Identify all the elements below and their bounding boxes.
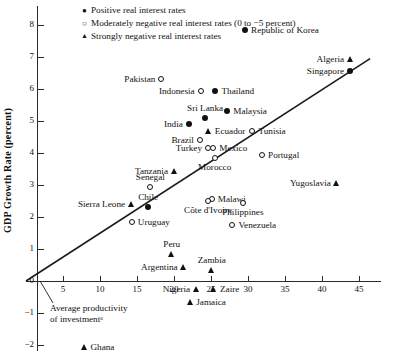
open-circle-marker-icon: [210, 145, 216, 151]
open-circle-marker-icon: [198, 88, 204, 94]
open-circle-marker-icon: [147, 184, 153, 190]
x-tick: [285, 276, 286, 282]
y-tick: [38, 153, 44, 154]
x-tick-label: 40: [315, 284, 329, 294]
data-point-label: Malaysia: [233, 106, 267, 116]
data-point-label: Yugoslavia: [290, 178, 331, 188]
x-tick-label: 35: [278, 284, 292, 294]
filled-circle-icon: ●: [78, 4, 91, 17]
legend-item-label: Strongly negative real interest rates: [91, 30, 221, 43]
data-point-label: Republic of Korea: [251, 25, 319, 35]
x-tick-label: 10: [93, 284, 107, 294]
y-tick-label: 2: [16, 211, 34, 221]
filled-circle-marker-icon: [242, 27, 248, 33]
y-tick-label: 4: [16, 147, 34, 157]
filled-circle-marker-icon: [186, 121, 192, 127]
data-point-label: Sierra Leone: [78, 199, 125, 209]
y-tick-label: −1: [16, 307, 34, 317]
data-point-label: Morocco: [198, 162, 231, 172]
data-point-label: Jamaica: [196, 297, 226, 307]
triangle-marker-icon: [81, 344, 87, 350]
legend-item-label: Positive real interest rates: [91, 4, 186, 17]
data-point-label: Thailand: [221, 86, 254, 96]
data-point-label: Algeria: [317, 54, 345, 64]
annotation-line-1: Average productivity: [50, 303, 128, 314]
triangle-marker-icon: [208, 267, 214, 273]
y-tick-label: 1: [16, 243, 34, 253]
x-tick-label: 15: [130, 284, 144, 294]
triangle-marker-icon: [171, 168, 177, 174]
filled-circle-marker-icon: [202, 115, 208, 121]
x-tick-label: 5: [56, 284, 70, 294]
open-circle-marker-icon: [129, 219, 135, 225]
y-tick: [38, 345, 44, 346]
data-point-label: Sri Lanka: [187, 103, 223, 113]
data-point-label: Nigeria: [163, 284, 191, 294]
y-tick: [38, 217, 44, 218]
triangle-marker-icon: [187, 299, 193, 305]
data-point-label: Philippines: [222, 207, 263, 217]
triangle-marker-icon: [347, 56, 353, 62]
y-tick: [38, 121, 44, 122]
data-point-label: Peru: [163, 239, 180, 249]
x-tick: [63, 276, 64, 282]
data-point-label: Indonesia: [159, 86, 195, 96]
y-tick-label: 3: [16, 179, 34, 189]
data-point-label: Pakistan: [124, 74, 155, 84]
y-tick-label: 6: [16, 83, 34, 93]
triangle-marker-icon: [168, 251, 174, 257]
x-tick-label: 30: [241, 284, 255, 294]
y-tick: [38, 89, 44, 90]
data-point-label: Tunisia: [258, 126, 285, 136]
scatter-chart: GDP Growth Rate (percent) ●Positive real…: [0, 0, 393, 360]
y-tick: [38, 185, 44, 186]
filled-circle-marker-icon: [145, 204, 151, 210]
filled-circle-marker-icon: [224, 108, 230, 114]
legend-item-0: ●Positive real interest rates: [78, 4, 296, 17]
open-circle-marker-icon: [229, 222, 235, 228]
y-tick: [38, 281, 44, 282]
triangle-marker-icon: [128, 201, 134, 207]
data-point-label: Ecuador: [215, 126, 246, 136]
y-tick: [38, 249, 44, 250]
x-tick: [137, 276, 138, 282]
data-point-label: Senegal: [136, 172, 165, 182]
triangle-marker-icon: [333, 180, 339, 186]
filled-circle-marker-icon: [347, 68, 353, 74]
data-point-label: Singapore: [307, 66, 344, 76]
y-tick-label: −2: [16, 339, 34, 349]
open-circle-marker-icon: [259, 152, 265, 158]
x-axis-line: [26, 281, 381, 282]
filled-circle-marker-icon: [212, 88, 218, 94]
triangle-marker-icon: [210, 286, 216, 292]
data-point-label: Chile: [138, 192, 158, 202]
y-tick-label: 5: [16, 115, 34, 125]
data-point-label: Argentina: [141, 262, 178, 272]
triangle-icon: ▲: [78, 30, 91, 43]
x-tick: [174, 276, 175, 282]
data-point-label: India: [164, 119, 183, 129]
open-circle-marker-icon: [240, 200, 246, 206]
chart-legend: ●Positive real interest rates○Moderately…: [78, 4, 296, 44]
x-tick-label: 45: [352, 284, 366, 294]
data-point-label: Zambia: [198, 255, 226, 265]
data-point-label: Mexico: [219, 143, 247, 153]
triangle-marker-icon: [193, 286, 199, 292]
annotation-average-productivity: Average productivity of investmentᵃ: [50, 303, 128, 325]
data-point-label: Zaire: [220, 284, 239, 294]
triangle-marker-icon: [205, 128, 211, 134]
open-circle-marker-icon: [212, 155, 218, 161]
x-tick: [248, 276, 249, 282]
y-tick: [38, 57, 44, 58]
y-tick-label: 8: [16, 19, 34, 29]
data-point-label: Venezuela: [238, 220, 276, 230]
y-tick-label: 0: [16, 275, 34, 285]
y-tick-label: 7: [16, 51, 34, 61]
open-circle-marker-icon: [249, 128, 255, 134]
data-point-label: Ghana: [90, 342, 114, 352]
x-tick: [359, 276, 360, 282]
y-axis-label: GDP Growth Rate (percent): [2, 108, 16, 233]
triangle-marker-icon: [180, 264, 186, 270]
open-circle-icon: ○: [78, 17, 91, 30]
y-tick: [38, 313, 44, 314]
